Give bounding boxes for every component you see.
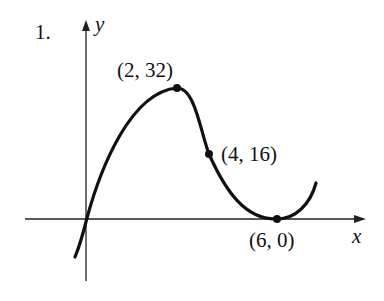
- y-axis-label: y: [95, 14, 104, 35]
- x-axis-label: x: [352, 226, 361, 247]
- point-inflection: [205, 150, 213, 158]
- graph-canvas: [0, 0, 384, 301]
- point-label-inflection: (4, 16): [221, 144, 277, 165]
- point-label-min: (6, 0): [249, 230, 295, 251]
- x-axis-arrow-icon: [354, 215, 366, 223]
- y-axis-arrow-icon: [82, 20, 90, 31]
- point-min: [273, 215, 281, 223]
- problem-number: 1.: [35, 22, 51, 43]
- point-max: [173, 84, 181, 92]
- point-label-max: (2, 32): [117, 60, 173, 81]
